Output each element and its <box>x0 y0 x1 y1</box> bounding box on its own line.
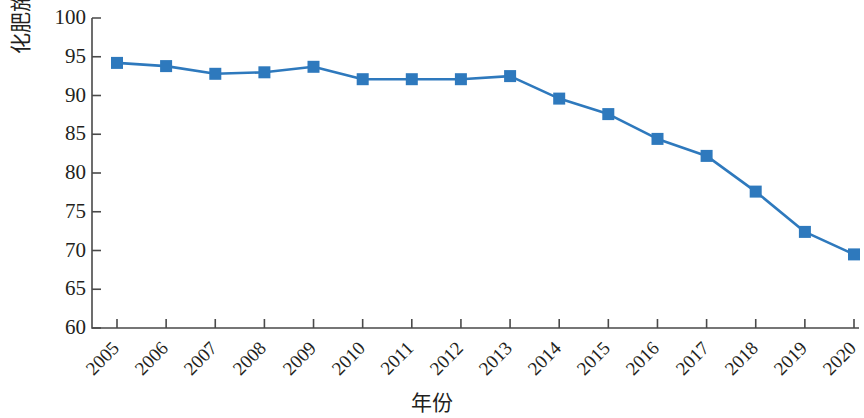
data-point-marker: 2013: 92.5 <box>504 70 516 82</box>
x-axis-title: 年份 <box>0 386 864 416</box>
y-axis-ticks <box>92 57 101 328</box>
data-point-marker: 2011: 92.1 <box>406 73 418 85</box>
axis-lines <box>92 18 859 328</box>
data-point-marker: 2016: 84.4 <box>652 133 664 145</box>
data-point-marker: 2007: 92.8 <box>209 68 221 80</box>
data-point-marker: 2010: 92.1 <box>357 73 369 85</box>
data-point-marker: 2008: 93 <box>258 66 270 78</box>
series-line <box>117 63 854 255</box>
data-point-marker: 2018: 77.6 <box>750 186 762 198</box>
plot-area: 2005: 94.22006: 93.82007: 92.82008: 9320… <box>0 0 864 418</box>
data-point-marker: 2014: 89.6 <box>553 93 565 105</box>
data-point-marker: 2005: 94.2 <box>111 57 123 69</box>
data-point-marker: 2015: 87.6 <box>602 108 614 120</box>
series-markers: 2005: 94.22006: 93.82007: 92.82008: 9320… <box>111 57 860 261</box>
data-point-marker: 2012: 92.1 <box>455 73 467 85</box>
data-point-marker: 2006: 93.8 <box>160 60 172 72</box>
data-point-marker: 2020: 69.5 <box>848 248 860 260</box>
data-point-marker: 2009: 93.7 <box>308 61 320 73</box>
x-axis-ticks <box>117 319 854 328</box>
data-point-marker: 2017: 82.2 <box>701 150 713 162</box>
fertilizer-usage-line-chart: 化肥施用量/万吨 6065707580859095100 20052006200… <box>0 0 864 418</box>
data-point-marker: 2019: 72.4 <box>799 226 811 238</box>
